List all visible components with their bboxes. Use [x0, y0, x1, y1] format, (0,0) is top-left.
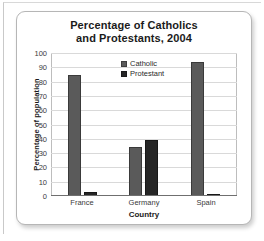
y-axis-tick-label: 80: [39, 77, 47, 86]
x-axis-title: Country: [51, 210, 237, 219]
axis-baseline: [51, 195, 237, 196]
bar: [129, 147, 142, 195]
legend-label: Catholic: [130, 59, 157, 68]
chart-legend: CatholicProtestant: [121, 59, 164, 79]
bar-group: [175, 54, 236, 195]
bar: [68, 75, 81, 195]
y-axis-tick-label: 0: [43, 192, 47, 201]
chart-panel: Percentage of Catholics and Protestants,…: [16, 11, 252, 225]
x-axis-tick-label: Spain: [175, 198, 237, 207]
bar-group: [52, 54, 113, 195]
y-axis-tick-label: 90: [39, 63, 47, 72]
legend-swatch-icon: [121, 71, 127, 77]
x-axis-tick-label: Germany: [113, 198, 175, 207]
y-axis-tick-label: 100: [34, 49, 47, 58]
bar: [191, 62, 204, 195]
y-axis-tick-label: 60: [39, 106, 47, 115]
chart-title-line-2: and Protestants, 2004: [17, 32, 251, 45]
chart-title-line-1: Percentage of Catholics: [70, 19, 198, 31]
legend-label: Protestant: [130, 69, 164, 78]
y-axis-tick-label: 10: [39, 177, 47, 186]
bar: [145, 140, 158, 195]
chart-figure: Percentage of Catholics and Protestants,…: [0, 0, 264, 241]
legend-item: Protestant: [121, 69, 164, 78]
chart-title: Percentage of Catholics and Protestants,…: [17, 19, 251, 45]
y-axis-tick-label: 30: [39, 149, 47, 158]
y-axis-tick-label: 20: [39, 163, 47, 172]
legend-swatch-icon: [121, 61, 127, 67]
legend-item: Catholic: [121, 59, 164, 68]
y-axis-tick-label: 40: [39, 134, 47, 143]
y-axis-tick-label: 50: [39, 120, 47, 129]
x-axis-tick-labels: FranceGermanySpain: [51, 198, 237, 207]
x-axis-tick-label: France: [51, 198, 113, 207]
y-axis-tick-label: 70: [39, 91, 47, 100]
